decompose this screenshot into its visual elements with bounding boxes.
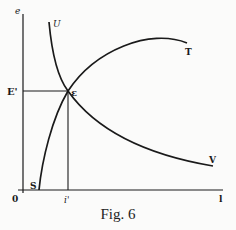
intersection-label: ε xyxy=(71,87,77,98)
x-end-label: l xyxy=(219,194,223,204)
curve-v-label: V xyxy=(208,155,217,165)
curve-st xyxy=(39,38,187,190)
curve-t-label: T xyxy=(185,47,192,57)
i-prime-label: i' xyxy=(64,195,69,205)
curve-u-label: U xyxy=(53,19,61,29)
figure-caption: Fig. 6 xyxy=(0,206,236,223)
e-prime-label: E' xyxy=(7,86,18,97)
figure-diagram: e U T E' ε V S 0 i' l xyxy=(0,0,236,230)
origin-label: 0 xyxy=(12,194,18,204)
curve-s-label: S xyxy=(30,181,37,191)
y-axis-label: e xyxy=(15,6,20,16)
